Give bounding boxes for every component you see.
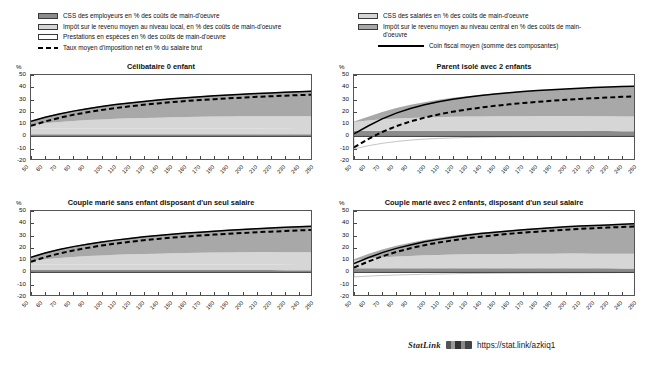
x-tick-label: 210 <box>247 300 258 311</box>
central-income-tax-swatch-icon <box>358 24 378 30</box>
y-tick-label: 30 <box>333 95 349 102</box>
x-tick-label: 170 <box>191 300 202 311</box>
x-tick-label: 190 <box>219 164 230 175</box>
x-tick-label: 130 <box>134 300 145 311</box>
x-tick-label: 140 <box>472 300 483 311</box>
y-tick-label: -10 <box>333 280 349 287</box>
x-tick-label: 90 <box>77 300 86 309</box>
x-tick-label: 150 <box>163 164 174 175</box>
y-tick-label: 50 <box>10 206 26 213</box>
y-axis-unit: % <box>16 63 22 70</box>
employee-ssc-swatch-icon <box>358 13 378 19</box>
y-tick-label: 10 <box>333 119 349 126</box>
chart-title: Parent isolé avec 2 enfants <box>323 62 645 71</box>
legend-item: Impôt sur le revenu moyen au niveau loca… <box>38 23 328 31</box>
x-tick-label: 70 <box>372 300 381 309</box>
x-tick-label: 160 <box>500 300 511 311</box>
x-tick-label: 120 <box>443 300 454 311</box>
series-layer <box>31 75 312 160</box>
y-tick-label: 0 <box>333 267 349 274</box>
series-layer <box>354 75 635 160</box>
x-tick-label: 50 <box>344 300 353 309</box>
x-tick-label: 140 <box>149 300 160 311</box>
x-tick-label: 220 <box>584 164 595 175</box>
x-tick-label: 110 <box>106 164 117 175</box>
legend-item: Impôt sur le revenu moyen au niveau cent… <box>358 23 643 40</box>
y-tick-label: -10 <box>10 280 26 287</box>
x-tick-label: 70 <box>372 164 381 173</box>
x-tick-label: 230 <box>598 300 609 311</box>
x-tick-label: 130 <box>457 300 468 311</box>
x-tick-label: 180 <box>205 164 216 175</box>
x-tick-label: 50 <box>344 164 353 173</box>
x-tick-label: 250 <box>627 300 638 311</box>
x-tick-label: 230 <box>598 164 609 175</box>
chart-title: Couple marié sans enfant disposant d'un … <box>0 198 322 207</box>
y-tick-label: 30 <box>10 231 26 238</box>
statlink-footer: StatLink https://stat.link/azkiq1 <box>408 340 555 350</box>
y-tick-label: -20 <box>10 292 26 299</box>
area-band <box>31 129 312 135</box>
y-tick-label: 20 <box>333 243 349 250</box>
area-band <box>354 131 635 137</box>
x-tick-label: 50 <box>21 300 30 309</box>
x-tick-label: 60 <box>35 300 44 309</box>
x-tick-label: 170 <box>514 300 525 311</box>
chart-panel-celibataire-0-enfant: Célibataire 0 enfant%50403020100-10-2050… <box>0 62 322 190</box>
x-tick-label: 80 <box>63 164 72 173</box>
legend-label: CSS des salariés en % des coûts de main-… <box>383 12 528 20</box>
x-tick-label: 230 <box>275 300 286 311</box>
x-tick-label: 190 <box>219 300 230 311</box>
chart-panel-couple-2-enfants: Couple marié avec 2 enfants, disposant d… <box>323 198 645 326</box>
y-tick-label: 30 <box>10 95 26 102</box>
y-tick-label: 40 <box>10 218 26 225</box>
plot-area <box>353 210 635 296</box>
x-tick-label: 120 <box>443 164 454 175</box>
x-tick-label: 240 <box>613 164 624 175</box>
x-tick-label: 210 <box>570 300 581 311</box>
x-tick-label: 80 <box>386 300 395 309</box>
y-tick-label: 50 <box>10 70 26 77</box>
x-tick-label: 120 <box>120 300 131 311</box>
y-tick-label: 0 <box>10 131 26 138</box>
x-tick-label: 170 <box>191 164 202 175</box>
chart-title: Couple marié avec 2 enfants, disposant d… <box>323 198 645 207</box>
y-tick-label: 0 <box>10 267 26 274</box>
statlink-barcode-icon <box>446 341 472 349</box>
x-tick-label: 190 <box>542 164 553 175</box>
x-tick-label: 180 <box>528 300 539 311</box>
y-axis-unit: % <box>16 199 22 206</box>
x-tick-label: 150 <box>486 164 497 175</box>
y-axis-unit: % <box>339 63 345 70</box>
legend-item: CSS des employeurs en % des coûts de mai… <box>38 12 328 20</box>
legend-item: Taux moyen d'imposition net en % du sala… <box>38 44 328 52</box>
x-tick-label: 230 <box>275 164 286 175</box>
area-band <box>354 272 635 276</box>
chart-panel-parent-isole-2-enfants: Parent isolé avec 2 enfants%50403020100-… <box>323 62 645 190</box>
legend-label: Prestations en espèces en % des coûts de… <box>63 33 226 41</box>
x-tick-label: 220 <box>261 164 272 175</box>
y-tick-label: 40 <box>10 82 26 89</box>
chart-title: Célibataire 0 enfant <box>0 62 322 71</box>
plot-area <box>30 210 312 296</box>
x-tick-label: 160 <box>177 164 188 175</box>
y-tick-label: 30 <box>333 231 349 238</box>
y-tick-label: 50 <box>333 206 349 213</box>
local-income-tax-swatch-icon <box>38 24 58 30</box>
y-tick-label: 20 <box>10 107 26 114</box>
x-tick-label: 250 <box>304 300 315 311</box>
x-tick-label: 80 <box>386 164 395 173</box>
legend-right: CSS des salariés en % des coûts de main-… <box>358 12 643 52</box>
statlink-label: StatLink <box>408 340 441 350</box>
x-tick-label: 90 <box>400 300 409 309</box>
y-tick-label: 10 <box>10 255 26 262</box>
x-tick-label: 90 <box>400 164 409 173</box>
legend-label: Taux moyen d'imposition net en % du sala… <box>63 44 202 52</box>
x-tick-label: 160 <box>500 164 511 175</box>
y-tick-label: 20 <box>10 243 26 250</box>
x-tick-label: 80 <box>63 300 72 309</box>
statlink-url[interactable]: https://stat.link/azkiq1 <box>477 341 555 350</box>
x-tick-label: 150 <box>486 300 497 311</box>
employer-ssc-swatch-icon <box>38 13 58 19</box>
x-tick-label: 70 <box>49 164 58 173</box>
